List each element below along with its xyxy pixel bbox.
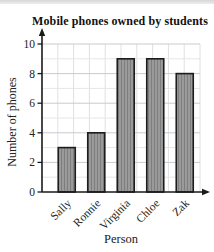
bar-chart-canvas: 0246810SallyRonnieVirginiaChloeZak — [0, 0, 214, 252]
x-category-label: Zak — [170, 197, 191, 218]
x-category-label: Sally — [48, 197, 74, 223]
y-axis-arrow-icon — [39, 28, 45, 36]
y-tick-label: 0 — [29, 186, 35, 198]
bar-chloe — [147, 59, 164, 192]
bar-sally — [58, 148, 75, 192]
x-category-label: Chloe — [134, 197, 162, 225]
y-tick-label: 2 — [29, 156, 35, 168]
y-tick-label: 4 — [29, 127, 35, 139]
x-axis-title: Person — [42, 232, 200, 247]
bar-virginia — [117, 59, 134, 192]
y-tick-label: 10 — [24, 38, 36, 50]
x-category-label: Virginia — [97, 197, 133, 233]
y-tick-label: 6 — [29, 97, 35, 109]
bar-zak — [176, 74, 193, 192]
bar-ronnie — [88, 133, 105, 192]
y-tick-label: 8 — [29, 68, 35, 80]
x-axis-arrow-icon — [202, 189, 210, 195]
chart-figure: Mobile phones owned by students Number o… — [0, 0, 214, 252]
